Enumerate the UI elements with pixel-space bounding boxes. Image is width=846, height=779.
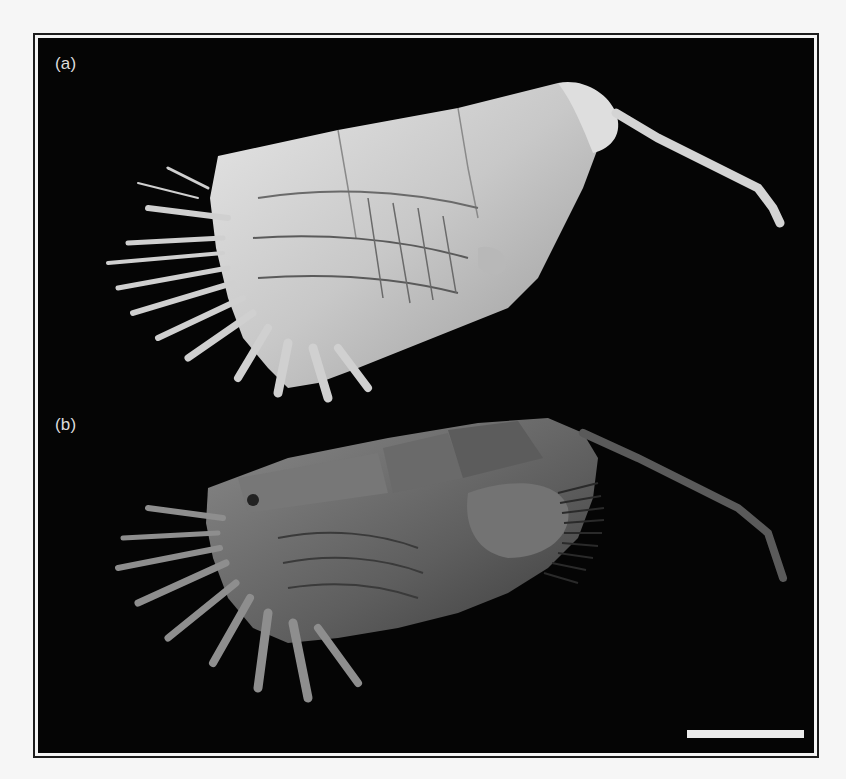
specimen-render-a: [38, 38, 812, 751]
panel-label-b: (b): [55, 415, 76, 435]
scale-bar: [687, 730, 804, 738]
figure-panel: (a) (b): [38, 38, 814, 753]
figure-frame: (a) (b): [33, 33, 819, 758]
antenna-a: [616, 113, 780, 223]
antenna-b: [583, 433, 783, 578]
carapace-a: [210, 83, 598, 388]
figure-inner-border: (a) (b): [35, 35, 817, 756]
panel-label-a: (a): [55, 54, 76, 74]
caption-cutoff: [0, 762, 846, 779]
